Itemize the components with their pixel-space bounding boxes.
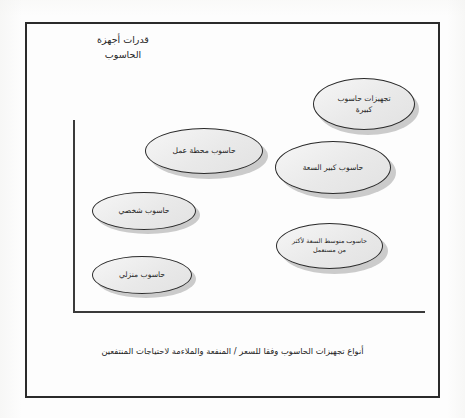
bubble-label-large-computer-equipment: تجهيزات حاسوب كبيرة [331,93,396,116]
y-axis-title-line-2: الحاسوب [58,48,188,63]
y-axis-title-line-1: قدرات أجهزة [58,33,188,48]
bubble-large-computer-equipment[interactable]: تجهيزات حاسوب كبيرة [313,78,415,130]
bubble-label-home-computer: حاسوب منزلي [113,269,171,280]
bubble-home-computer[interactable]: حاسوب منزلي [92,256,192,294]
bubble-label-workstation-computer: حاسوب محطة عمل [166,145,241,156]
bubble-label-large-capacity-computer: حاسوب كبير السعة [297,162,370,173]
bubble-personal-computer[interactable]: حاسوب شخصي [92,192,196,230]
x-axis-caption: أنواع تجهيزات الحاسوب وفقا للسعر / المنف… [40,346,425,356]
bubble-label-medium-capacity-multiuser-computer: حاسوب متوسط السعة لأكثر من مستعمل [286,237,373,256]
bubble-workstation-computer[interactable]: حاسوب محطة عمل [145,128,263,174]
bubble-medium-capacity-multiuser-computer[interactable]: حاسوب متوسط السعة لأكثر من مستعمل [276,223,383,269]
x-axis-line [73,311,425,313]
bubble-large-capacity-computer[interactable]: حاسوب كبير السعة [275,141,391,194]
diagram-canvas: قدرات أجهزة الحاسوب تجهيزات حاسوب كبيرة … [0,0,465,418]
bubble-label-personal-computer: حاسوب شخصي [112,205,175,216]
y-axis-line [73,120,75,313]
y-axis-title: قدرات أجهزة الحاسوب [58,33,188,62]
